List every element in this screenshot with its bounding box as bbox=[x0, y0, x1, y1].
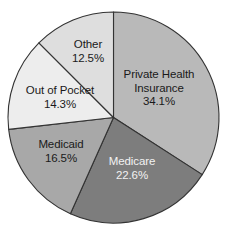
slice-label-name-line1: Private Health bbox=[118, 68, 200, 82]
slice-label-name-line2: Insurance bbox=[118, 82, 200, 96]
pie-chart-svg bbox=[0, 0, 228, 232]
slice-label-name-line1: Other bbox=[56, 38, 120, 52]
slice-label-value: 14.3% bbox=[16, 98, 104, 112]
pie-slice-label-out-of-pocket: Out of Pocket 14.3% bbox=[16, 84, 104, 111]
slice-label-value: 22.6% bbox=[96, 169, 168, 183]
pie-slice-label-medicaid: Medicaid 16.5% bbox=[28, 138, 94, 165]
slice-label-value: 16.5% bbox=[28, 152, 94, 166]
pie-slice-label-medicare: Medicare 22.6% bbox=[96, 155, 168, 182]
pie-chart: Private Health Insurance 34.1% Medicare … bbox=[0, 0, 228, 232]
slice-label-value: 34.1% bbox=[118, 95, 200, 109]
slice-label-name-line1: Medicare bbox=[96, 155, 168, 169]
slice-label-name-line1: Out of Pocket bbox=[16, 84, 104, 98]
slice-label-value: 12.5% bbox=[56, 52, 120, 66]
pie-slice-label-other: Other 12.5% bbox=[56, 38, 120, 65]
pie-slice-label-private-health-insurance: Private Health Insurance 34.1% bbox=[118, 68, 200, 109]
slice-label-name-line1: Medicaid bbox=[28, 138, 94, 152]
